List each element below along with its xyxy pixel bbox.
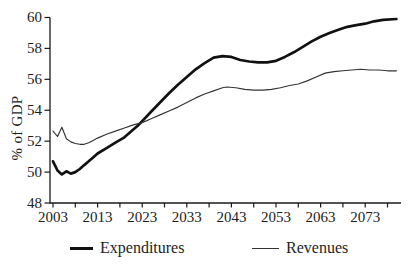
legend-label-revenues: Revenues — [286, 239, 348, 257]
chart-canvas: 4850525456586020032013202320332043205320… — [0, 0, 409, 266]
y-tick-label: 54 — [27, 102, 43, 118]
y-tick-label: 52 — [27, 133, 42, 149]
revenues-line-swatch — [252, 248, 279, 249]
x-tick-label: 2033 — [172, 209, 202, 225]
x-tick-label: 2013 — [83, 209, 113, 225]
x-tick-label: 2043 — [216, 209, 246, 225]
legend-item-expenditures: Expenditures — [70, 238, 184, 258]
x-tick-label: 2063 — [306, 209, 336, 225]
x-tick-label: 2073 — [350, 209, 380, 225]
y-axis-title: % of GDP — [9, 96, 26, 161]
y-tick-label: 56 — [27, 71, 43, 87]
x-tick-label: 2023 — [127, 209, 157, 225]
x-tick-label: 2003 — [38, 209, 68, 225]
y-tick-label: 50 — [27, 164, 42, 180]
chart-figure: 4850525456586020032013202320332043205320… — [0, 0, 409, 266]
legend-label-expenditures: Expenditures — [100, 239, 184, 257]
series-line-expenditures — [53, 19, 396, 174]
expenditures-line-swatch — [70, 247, 93, 250]
series-line-revenues — [53, 69, 396, 144]
x-tick-label: 2053 — [261, 209, 291, 225]
y-tick-label: 58 — [27, 40, 42, 56]
y-tick-label: 60 — [27, 9, 42, 25]
legend-item-revenues: Revenues — [252, 238, 348, 258]
